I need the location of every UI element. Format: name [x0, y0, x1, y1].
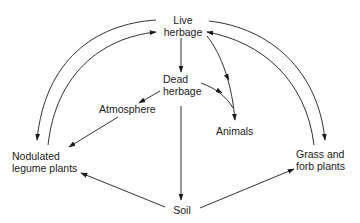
node-soil: Soil	[168, 204, 196, 216]
live-herbage-line2: herbage	[160, 26, 206, 38]
node-grass-forb: Grass and forb plants	[296, 148, 345, 172]
arrow-live-to-legume	[37, 20, 156, 140]
grass-forb-line1: Grass and	[296, 148, 345, 160]
arrow-dead-to-animals-head	[210, 86, 222, 93]
arrow-soil-to-grass	[200, 169, 294, 208]
nutrient-cycle-diagram: Live herbage Dead herbage Atmosphere Ani…	[0, 0, 360, 223]
nodulated-legume-line2: legume plants	[12, 162, 77, 174]
grass-forb-line2: forb plants	[296, 160, 345, 172]
node-live-herbage: Live herbage	[160, 14, 206, 38]
arrow-legume-to-live	[48, 32, 156, 145]
dead-herbage-line2: herbage	[163, 85, 209, 97]
arrow-soil-to-legume	[81, 173, 165, 207]
atmosphere-label: Atmosphere	[99, 103, 156, 115]
dead-herbage-line1: Dead	[163, 73, 209, 85]
soil-label: Soil	[168, 204, 196, 216]
node-atmosphere: Atmosphere	[99, 103, 156, 115]
nodulated-legume-line1: Nodulated	[12, 150, 77, 162]
arrow-dead-to-atmosphere	[139, 91, 160, 103]
node-nodulated-legume: Nodulated legume plants	[12, 150, 77, 174]
node-animals: Animals	[216, 125, 253, 137]
live-herbage-line1: Live	[160, 14, 206, 26]
arrow-atmosphere-to-legume	[69, 117, 118, 147]
animals-label: Animals	[216, 125, 253, 137]
arrow-live-to-grass	[209, 21, 325, 140]
node-dead-herbage: Dead herbage	[163, 73, 209, 97]
arrow-live-to-animals	[207, 36, 235, 120]
